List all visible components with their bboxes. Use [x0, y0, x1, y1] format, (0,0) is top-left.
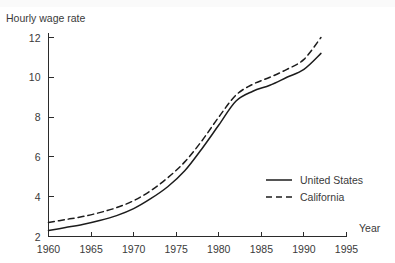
- legend-label-california: California: [300, 191, 345, 203]
- legend-label-united-states: United States: [300, 174, 363, 186]
- y-tick-label: 12: [29, 32, 41, 44]
- y-tick-label: 10: [29, 71, 41, 83]
- x-tick-label: 1975: [165, 243, 189, 255]
- y-axis-ticks: 24681012: [29, 32, 54, 243]
- series-lines: [49, 38, 321, 231]
- series-line-united-states: [49, 53, 321, 230]
- x-tick-label: 1985: [250, 243, 274, 255]
- chart-figure: Hourly wage rate 24681012 19601965197019…: [0, 0, 395, 263]
- axis-lines: [49, 33, 347, 237]
- line-chart: Hourly wage rate 24681012 19601965197019…: [0, 0, 395, 263]
- y-axis-title-label: Hourly wage rate: [6, 12, 86, 24]
- x-tick-label: 1990: [292, 243, 316, 255]
- y-tick-label: 2: [35, 231, 41, 243]
- x-tick-label: 1970: [122, 243, 146, 255]
- x-axis-title: Year: [359, 222, 381, 234]
- y-axis-title: Hourly wage rate: [6, 12, 86, 24]
- y-tick-label: 4: [35, 191, 41, 203]
- y-tick-label: 6: [35, 151, 41, 163]
- chart-legend: United StatesCalifornia: [266, 174, 363, 203]
- x-axis-ticks: 19601965197019751980198519901995: [37, 232, 359, 255]
- top-band: [0, 0, 395, 7]
- x-tick-label: 1980: [207, 243, 231, 255]
- x-tick-label: 1965: [79, 243, 103, 255]
- x-tick-label: 1995: [335, 243, 359, 255]
- series-line-california: [49, 38, 321, 223]
- x-axis-title-label: Year: [359, 222, 381, 234]
- y-tick-label: 8: [35, 111, 41, 123]
- x-tick-label: 1960: [37, 243, 61, 255]
